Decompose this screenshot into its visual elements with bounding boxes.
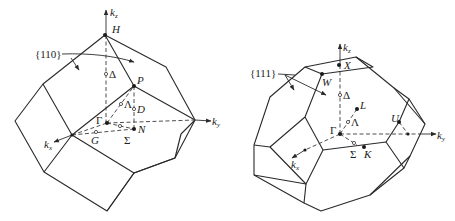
bcc-delta-marker xyxy=(104,72,107,75)
bcc-lambda-marker xyxy=(119,102,122,105)
fcc-lambda-label: Λ xyxy=(351,116,359,128)
bcc-plane-label: {110} xyxy=(35,48,62,60)
fcc-square-left xyxy=(270,117,323,184)
fcc-kx-label: kx xyxy=(291,158,300,172)
bcc-N-label: N xyxy=(137,123,146,135)
bcc-point-kx-face xyxy=(70,133,73,136)
fcc-X-label: X xyxy=(343,59,352,71)
bcc-P-label: P xyxy=(136,74,144,86)
bcc-kx-label: kx xyxy=(44,138,53,152)
fcc-point-L xyxy=(355,107,359,111)
fcc-edge-right xyxy=(409,99,425,124)
fcc-U-line xyxy=(399,122,408,134)
bcc-gamma-ky-line xyxy=(107,120,195,123)
bcc-kz-label: kz xyxy=(110,6,118,20)
fcc-gamma-kx-line xyxy=(305,134,340,150)
bcc-point-P xyxy=(132,84,136,88)
bcc-ky-axis xyxy=(195,120,211,121)
fcc-point-kx-face xyxy=(303,148,306,151)
bcc-sigma-marker xyxy=(118,124,121,127)
bcc-brillouin-zone: {110} kz H P Δ Λ D Γ N Σ G ky kx xyxy=(15,6,221,211)
fcc-point-X xyxy=(337,63,341,67)
bcc-delta-label: Δ xyxy=(109,68,116,80)
fcc-point-gamma xyxy=(338,132,342,136)
bcc-gamma-label: Γ xyxy=(96,114,102,126)
fcc-kx-axis xyxy=(292,150,305,158)
bcc-G-label: G xyxy=(91,134,99,146)
brillouin-zones-figure: {110} kz H P Δ Λ D Γ N Σ G ky kx xyxy=(0,0,455,221)
fcc-gamma-label: Γ xyxy=(330,124,336,136)
fcc-delta-marker xyxy=(338,93,341,96)
bcc-edge-bottom xyxy=(107,173,134,211)
fcc-plane-leader xyxy=(278,74,295,75)
bcc-H-label: H xyxy=(111,23,121,35)
bcc-point-H xyxy=(103,33,107,37)
fcc-sigma-marker xyxy=(352,141,355,144)
fcc-U-label: U xyxy=(391,112,400,124)
fcc-delta-label: Δ xyxy=(343,89,350,101)
fcc-L-label: L xyxy=(359,99,366,111)
bcc-D-label: D xyxy=(136,103,145,115)
fcc-K-label: K xyxy=(363,148,372,160)
fcc-W-label: W xyxy=(322,76,332,88)
fcc-sigma-label: Σ xyxy=(350,148,356,160)
fcc-edge-lowleft xyxy=(304,184,306,203)
fcc-brillouin-zone: {111} kz X W Δ L Λ Γ U K Σ ky kx xyxy=(250,41,446,211)
bcc-D-marker xyxy=(132,107,135,110)
bcc-ky-label: ky xyxy=(212,115,221,129)
bcc-plane-arrow-2 xyxy=(71,58,79,70)
bcc-edge-right-inner xyxy=(175,134,181,158)
fcc-lambda-marker xyxy=(346,120,349,123)
fcc-edge-right-low xyxy=(404,156,410,168)
fcc-plane-label: {111} xyxy=(250,67,276,79)
fcc-kz-label: kz xyxy=(343,41,351,55)
bcc-point-N xyxy=(132,127,136,131)
fcc-ky-label: ky xyxy=(437,129,446,143)
bcc-lambda-label: Λ xyxy=(124,98,132,110)
fcc-hex-left xyxy=(254,74,322,147)
bcc-face-left xyxy=(43,84,72,172)
fcc-point-ky-face xyxy=(406,132,409,135)
bcc-sigma-label: Σ xyxy=(124,134,130,146)
bcc-edge-right-inner2 xyxy=(181,120,195,134)
bcc-point-gamma xyxy=(105,121,109,125)
